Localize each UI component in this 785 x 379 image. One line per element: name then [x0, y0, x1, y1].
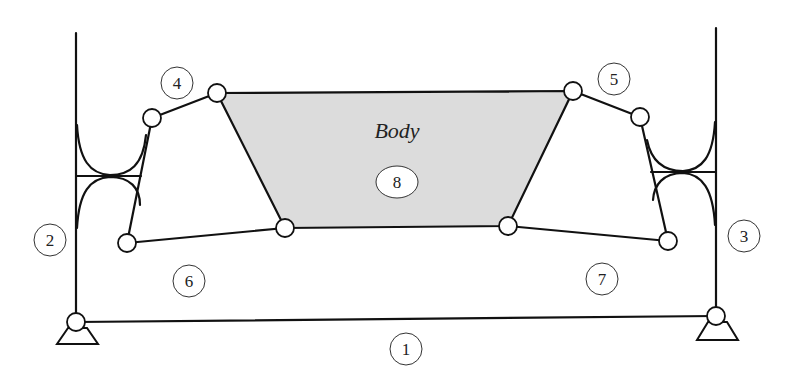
link-label-1: 1 [390, 333, 422, 365]
svg-text:4: 4 [173, 74, 182, 93]
svg-text:6: 6 [185, 272, 194, 291]
body-link-8 [217, 91, 573, 228]
link-5 [573, 91, 640, 117]
svg-text:2: 2 [46, 231, 55, 250]
joint-left-upper [143, 109, 161, 127]
svg-text:5: 5 [610, 70, 619, 89]
svg-text:1: 1 [402, 340, 411, 359]
link-label-7: 7 [586, 263, 618, 295]
linkage-diagram: Body 1 2 3 4 5 6 7 8 [0, 0, 785, 379]
link-label-6: 6 [173, 265, 205, 297]
right-flexure-spring [647, 122, 715, 225]
svg-text:8: 8 [393, 173, 402, 192]
link-6 [127, 228, 285, 243]
joint-right-upper [631, 108, 649, 126]
link-label-8: 8 [376, 166, 418, 198]
left-flexure-spring [77, 125, 146, 228]
left-rocker [127, 118, 152, 243]
joint-body-top-right [564, 82, 582, 100]
body-label: Body [374, 118, 419, 143]
link-label-4: 4 [161, 67, 193, 99]
joint-left-ground [67, 313, 85, 331]
joint-body-bottom-right [499, 217, 517, 235]
joint-right-lower [659, 232, 677, 250]
joint-body-top-left [208, 84, 226, 102]
joint-body-bottom-left [276, 219, 294, 237]
link-7 [508, 226, 668, 241]
ground-link-1 [76, 316, 716, 322]
link-label-5: 5 [598, 63, 630, 95]
svg-text:3: 3 [740, 227, 749, 246]
joint-right-ground [707, 307, 725, 325]
joint-left-lower [118, 234, 136, 252]
svg-text:7: 7 [598, 270, 607, 289]
link-label-3: 3 [728, 220, 760, 252]
link-label-2: 2 [34, 224, 66, 256]
